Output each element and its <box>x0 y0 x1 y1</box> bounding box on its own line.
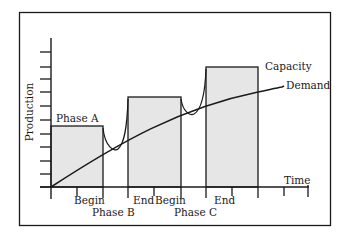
phase-c-begin-label: Begin <box>155 194 186 206</box>
phase-c-end-label: End <box>214 194 235 206</box>
x-axis-label: Time <box>284 174 311 186</box>
phase-c-label: Phase C <box>174 206 217 218</box>
capacity-label: Capacity <box>265 60 312 72</box>
phase-b-begin-label: Begin <box>74 194 105 206</box>
capacity-demand-diagram: Production Time Phase A Begin Phase B En… <box>0 0 347 236</box>
demand-label: Demand <box>286 79 331 91</box>
y-axis-ticks <box>40 52 51 187</box>
y-axis-label: Production <box>23 83 35 142</box>
phase-a-capacity-block <box>51 126 103 187</box>
phase-b-capacity-block <box>128 97 181 187</box>
phase-b-end-label: End <box>133 194 154 206</box>
phase-a-label: Phase A <box>56 112 99 124</box>
phase-b-label: Phase B <box>92 206 135 218</box>
phase-c-capacity-block <box>206 67 258 187</box>
